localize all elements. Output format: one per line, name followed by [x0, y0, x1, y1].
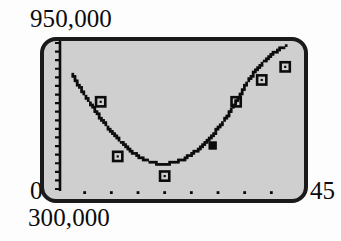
- y-axis-max-label: 950,000: [30, 6, 112, 31]
- plot-area: [42, 39, 306, 201]
- y-axis-min-label: 300,000: [28, 205, 110, 230]
- x-axis-max-label: 45: [310, 178, 335, 203]
- chart-screenshot: 950,000 300,000 0 45: [0, 0, 341, 241]
- plot-svg: [42, 39, 306, 201]
- plot-background: [42, 39, 306, 201]
